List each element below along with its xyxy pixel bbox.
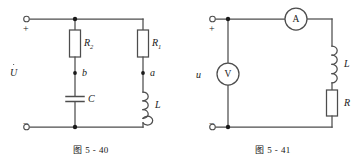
inductor-l-label: L (155, 100, 161, 110)
polarity-plus: + (209, 24, 215, 34)
node-label-b: b (82, 68, 87, 78)
junction-dot-top (73, 17, 77, 21)
source-label-u: u (196, 70, 201, 80)
figure-5-40: + − U R2 R1 C L b a 图 5 - 40 (0, 0, 182, 164)
source-label-u-text: U (10, 67, 17, 78)
source-label-u: U (10, 68, 17, 78)
phasor-dot-icon (13, 64, 15, 66)
figure-5-41: + − u A V L R 图 5 - 41 (182, 0, 364, 164)
terminal-positive (24, 16, 30, 22)
ammeter-label: A (291, 15, 301, 25)
figure-caption-5-41: 图 5 - 41 (182, 143, 364, 156)
polarity-minus: − (23, 119, 29, 129)
capacitor-c-label: C (88, 94, 95, 104)
polarity-minus: − (209, 119, 215, 129)
node-dot-a (141, 71, 145, 75)
resistor-r-body (327, 90, 338, 116)
junction-dot-bottom (73, 125, 77, 129)
figure-pair-page: + − U R2 R1 C L b a 图 5 - 40 (0, 0, 364, 164)
inductor-l-coil-3 (332, 64, 337, 73)
node-label-a: a (150, 68, 155, 78)
terminal-positive (210, 16, 216, 22)
inductor-l-label: L (344, 59, 350, 69)
resistor-r1-label-sub: 1 (158, 43, 161, 50)
inductor-l-coil-4 (332, 74, 337, 83)
polarity-plus: + (23, 24, 29, 34)
resistor-r2-label: R2 (84, 38, 93, 51)
node-dot-b (73, 71, 77, 75)
inductor-l-coil-2 (332, 55, 337, 64)
resistor-r2-label-sub: 2 (90, 43, 93, 50)
resistor-r1-body (138, 30, 149, 57)
voltmeter-label: V (223, 70, 233, 80)
inductor-l-coil-1 (143, 92, 148, 101)
resistor-r1-label: R1 (152, 38, 161, 51)
resistor-r2-body (70, 30, 81, 57)
figure-caption-5-40: 图 5 - 40 (0, 143, 182, 156)
inductor-l-coil-2 (143, 101, 148, 110)
junction-dot-top (226, 17, 230, 21)
inductor-l-coil-1 (332, 46, 337, 55)
junction-dot-bottom (226, 125, 230, 129)
inductor-l-coil-4 (143, 116, 153, 125)
resistor-r-label: R (344, 98, 350, 108)
